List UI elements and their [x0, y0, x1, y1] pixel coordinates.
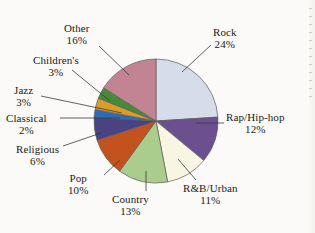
slice-label-jazz-name: Jazz: [14, 84, 33, 96]
slice-label-rap: Rap/Hip-hop 12%: [226, 111, 285, 136]
leader-line-rock: [182, 45, 211, 72]
pie-slices: [94, 59, 218, 183]
slice-label-rnb-pct: 11%: [183, 194, 238, 206]
slice-label-classical: Classical 2%: [6, 112, 47, 137]
slice-label-childrens: Children's 3%: [33, 54, 79, 79]
scan-marks-artifact: [309, 8, 312, 128]
slice-label-rap-name: Rap/Hip-hop: [226, 111, 285, 123]
pie-slice-rock: [156, 59, 218, 121]
slice-label-country-pct: 13%: [112, 205, 149, 217]
slice-label-childrens-pct: 3%: [33, 66, 79, 78]
slice-label-jazz: Jazz 3%: [14, 84, 33, 109]
slice-label-religious-name: Religious: [16, 143, 59, 155]
slice-label-classical-pct: 2%: [6, 124, 47, 136]
slice-label-rnb-name: R&B/Urban: [183, 182, 238, 194]
slice-label-rnb: R&B/Urban 11%: [183, 182, 238, 207]
slice-label-other: Other 16%: [64, 22, 90, 47]
pie-chart: Other 16% Children's 3% Jazz 3% Classica…: [0, 0, 315, 233]
leader-line-religious: [63, 133, 101, 146]
slice-label-pop: Pop 10%: [68, 172, 88, 197]
slice-label-rock: Rock 24%: [213, 26, 237, 51]
slice-label-religious-pct: 6%: [16, 155, 59, 167]
slice-label-pop-pct: 10%: [68, 184, 88, 196]
slice-label-country: Country 13%: [112, 193, 149, 218]
slice-label-classical-name: Classical: [6, 112, 47, 124]
slice-label-childrens-name: Children's: [33, 54, 79, 66]
slice-label-pop-name: Pop: [70, 172, 87, 184]
slice-label-rap-pct: 12%: [226, 123, 285, 135]
slice-label-other-pct: 16%: [64, 34, 90, 46]
slice-label-rock-pct: 24%: [213, 38, 237, 50]
slice-label-rock-name: Rock: [213, 26, 237, 38]
leader-line-other: [99, 46, 129, 75]
slice-label-other-name: Other: [64, 22, 90, 34]
slice-label-country-name: Country: [112, 193, 149, 205]
slice-label-religious: Religious 6%: [16, 143, 59, 168]
slice-label-jazz-pct: 3%: [14, 96, 33, 108]
